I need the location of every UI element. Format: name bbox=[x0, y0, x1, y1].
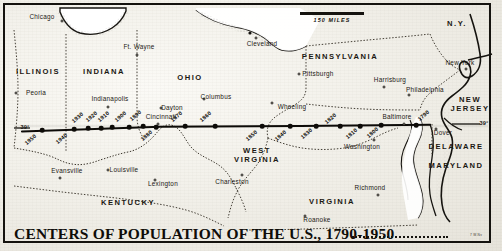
map-figure: 150 MILES 39° 39° ILLINOISINDIANAOHIOPEN… bbox=[0, 0, 502, 251]
title-underline-rule bbox=[352, 236, 448, 238]
map-title: CENTERS OF POPULATION OF THE U.S., 1790-… bbox=[14, 225, 394, 243]
map-border-frame bbox=[3, 3, 491, 243]
publisher-credit: 7 W.Nv bbox=[470, 233, 482, 237]
